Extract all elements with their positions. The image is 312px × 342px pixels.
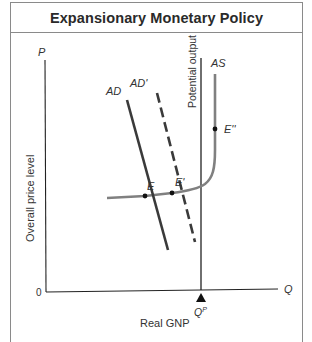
point-e [143,194,148,199]
y-axis-label: Overall price level [24,155,36,242]
point-e-prime [170,191,175,196]
point-e-double-prime [213,127,218,132]
ad-prime-curve [157,93,195,242]
as-curve [107,74,215,198]
point-e-prime-label: E' [175,176,185,188]
ad-curve [127,100,168,250]
y-axis [45,60,46,292]
x-axis [46,289,278,292]
ad-label: AD [105,85,121,97]
point-e-double-prime-label: E'' [224,123,236,135]
potential-output-tick-label: QP [194,306,207,318]
x-axis-label: Real GNP [140,317,190,329]
y-axis-symbol: P [38,46,46,58]
potential-output-label: Potential output [186,35,198,108]
ad-prime-label: AD' [129,77,148,89]
x-axis-symbol: Q [284,283,293,295]
as-label: AS [210,57,226,69]
potential-output-triangle-icon [196,293,206,302]
origin-label: 0 [36,287,42,298]
point-e-label: E [147,180,155,192]
